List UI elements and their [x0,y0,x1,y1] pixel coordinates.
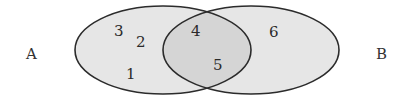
element-1: 1 [126,65,136,83]
element-6: 6 [269,23,279,41]
element-4: 4 [191,22,201,40]
element-3: 3 [114,22,124,40]
set-b-label: B [376,45,387,63]
element-2: 2 [136,33,146,51]
element-5: 5 [213,56,223,74]
set-a-label: A [25,45,37,63]
venn-diagram: A B 3 2 1 4 5 6 [0,0,405,99]
